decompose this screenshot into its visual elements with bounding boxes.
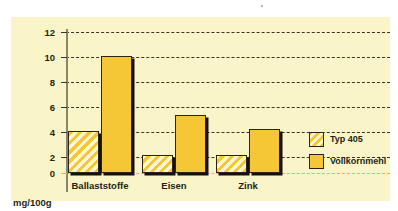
- tick-mark-0: [61, 173, 67, 174]
- bar-eisen-typ405: [142, 155, 173, 173]
- tick-mark-8: [61, 82, 67, 83]
- category-label-zink: Zink: [198, 181, 298, 191]
- tick-mark-4: [61, 132, 67, 133]
- tick-mark-12: [61, 32, 67, 33]
- ytick-label-0: 0: [29, 169, 55, 179]
- bar-zink-vollkornmehl: [249, 129, 280, 173]
- tick-mark-10: [61, 57, 67, 58]
- bar-ballaststoffe-typ405: [68, 131, 99, 173]
- ytick-label-6: 6: [29, 103, 55, 113]
- legend-label-typ405: Typ 405: [330, 135, 363, 144]
- legend-swatch-typ405: [309, 132, 324, 147]
- bar-eisen-vollkornmehl: [175, 115, 206, 173]
- gridline-12: [66, 32, 390, 33]
- plot-area: 12 10 8 6 4 2 0 Ballaststoffe Eisen Zink: [11, 17, 390, 201]
- ytick-label-8: 8: [29, 78, 55, 88]
- image-speck: [261, 5, 263, 7]
- ytick-label-12: 12: [29, 28, 55, 38]
- ytick-label-4: 4: [29, 128, 55, 138]
- ytick-label-10: 10: [29, 53, 55, 63]
- legend-swatch-vollkornmehl: [309, 154, 324, 169]
- gridline-baseline-0: [66, 173, 390, 174]
- unit-label: mg/100g: [13, 198, 52, 208]
- bar-ballaststoffe-vollkornmehl: [101, 56, 132, 173]
- bar-chart-figure: 12 10 8 6 4 2 0 Ballaststoffe Eisen Zink: [0, 0, 398, 211]
- tick-mark-2: [61, 157, 67, 158]
- ytick-label-2: 2: [29, 153, 55, 163]
- legend-label-vollkornmehl: Vollkornmehl: [330, 157, 386, 166]
- chart-panel: 12 10 8 6 4 2 0 Ballaststoffe Eisen Zink: [11, 17, 390, 201]
- tick-mark-6: [61, 107, 67, 108]
- bar-zink-typ405: [216, 155, 247, 173]
